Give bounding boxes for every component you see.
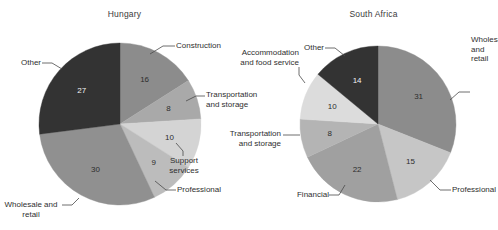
pie-slices-hungary bbox=[39, 43, 201, 205]
pie-south-africa: 31152281014 Wholesale and retail Profess… bbox=[249, 0, 498, 230]
pie-value-other: 27 bbox=[77, 86, 86, 95]
pie-value-accommodation-and-food-service: 10 bbox=[328, 102, 337, 111]
pie-value-professional: 9 bbox=[151, 158, 156, 167]
pie-value-wholesale-and-retail: 30 bbox=[91, 165, 100, 174]
pie-label-transportation-and-storage: Transportation and storage bbox=[209, 129, 281, 148]
callout-line-wholesale bbox=[62, 198, 79, 205]
callout-line-wholesale bbox=[450, 92, 470, 100]
callout-line-accommodation bbox=[299, 67, 305, 83]
chart-panel-hungary: Hungary 1681093027 Construction Transpor… bbox=[0, 0, 249, 230]
pie-label-wholesale-and-retail: Wholesale and retail bbox=[471, 35, 497, 64]
pie-svg-hungary: 1681093027 bbox=[0, 0, 249, 230]
callout-line-other bbox=[42, 63, 62, 69]
pie-label-professional: Professional bbox=[177, 185, 243, 195]
pie-slices-south-africa bbox=[300, 46, 456, 202]
pie-chart-figure: Hungary 1681093027 Construction Transpor… bbox=[0, 0, 498, 230]
pie-label-other: Other bbox=[290, 43, 324, 53]
pie-label-wholesale-and-retail: Wholesale and retail bbox=[0, 200, 62, 219]
pie-label-financial: Financial bbox=[277, 190, 329, 200]
pie-value-transportation-and-storage: 8 bbox=[166, 104, 171, 113]
pie-value-construction: 16 bbox=[140, 75, 149, 84]
pie-value-professional: 15 bbox=[406, 157, 415, 166]
pie-label-support-services: Support services bbox=[160, 156, 208, 175]
pie-value-support-services: 10 bbox=[165, 133, 174, 142]
pie-hungary: 1681093027 Construction Transportation a… bbox=[0, 0, 249, 230]
pie-value-transportation-and-storage: 8 bbox=[327, 129, 332, 138]
pie-label-accommodation-and-food-service: Accommodation and food service bbox=[215, 48, 299, 67]
pie-value-financial: 22 bbox=[353, 165, 362, 174]
pie-label-professional: Professional bbox=[452, 185, 498, 195]
pie-value-wholesale-and-retail: 31 bbox=[414, 92, 423, 101]
chart-panel-south-africa: South Africa 31152281014 Wholesale and r… bbox=[249, 0, 498, 230]
pie-label-other: Other bbox=[6, 58, 41, 68]
callout-line-professional bbox=[430, 180, 451, 190]
pie-value-other: 14 bbox=[353, 76, 362, 85]
